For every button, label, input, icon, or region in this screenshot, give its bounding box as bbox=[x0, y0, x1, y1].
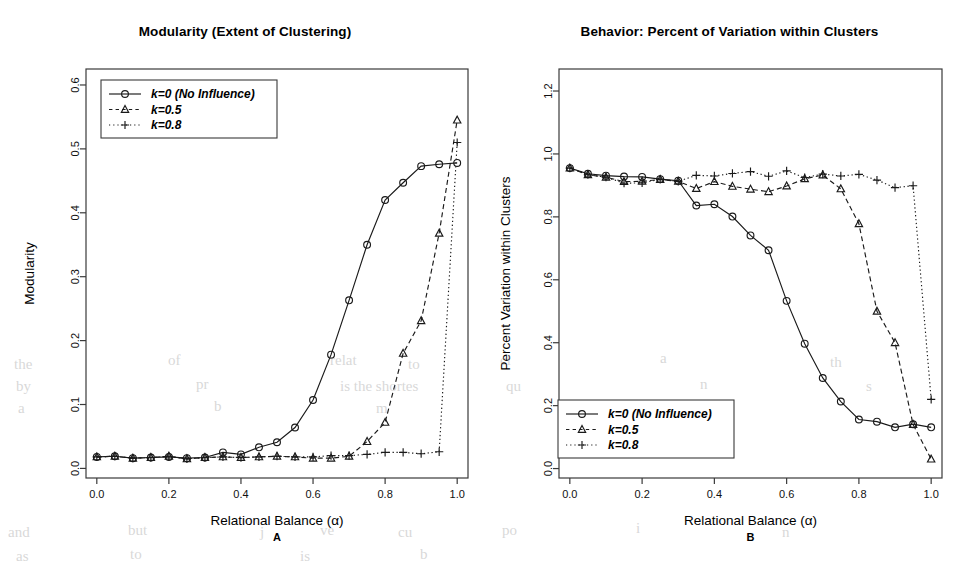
figure-container: Modularity (Extent of Clustering) 0.00.2… bbox=[0, 0, 969, 564]
data-point bbox=[837, 172, 845, 180]
data-point bbox=[891, 339, 898, 346]
data-point bbox=[381, 418, 388, 425]
y-tick-label: 0.1 bbox=[69, 397, 81, 412]
y-tick-label: 1.0 bbox=[542, 146, 554, 161]
data-point bbox=[435, 448, 443, 456]
data-point bbox=[417, 450, 425, 458]
data-point bbox=[399, 448, 407, 456]
y-tick-label: 1.2 bbox=[542, 83, 554, 98]
data-point bbox=[620, 179, 628, 187]
legend[interactable]: k=0 (No Influence)k=0.5k=0.8 bbox=[558, 400, 734, 458]
y-tick-label: 0.3 bbox=[69, 269, 81, 284]
data-point bbox=[855, 170, 863, 178]
series-1 bbox=[93, 116, 461, 462]
x-tick-label: 0.4 bbox=[707, 488, 722, 500]
data-point bbox=[746, 167, 754, 175]
legend-label: k=0.8 bbox=[151, 118, 182, 132]
panel-letter: A bbox=[273, 531, 281, 543]
data-point bbox=[638, 179, 646, 187]
x-tick-label: 0.0 bbox=[89, 488, 104, 500]
series-0 bbox=[93, 160, 460, 462]
x-tick-label: 0.2 bbox=[634, 488, 649, 500]
data-point bbox=[728, 169, 736, 177]
y-tick-label: 0.6 bbox=[69, 77, 81, 92]
y-tick-label: 0.0 bbox=[542, 461, 554, 476]
data-point bbox=[381, 448, 389, 456]
x-tick-label: 0.6 bbox=[305, 488, 320, 500]
x-tick-label: 0.8 bbox=[851, 488, 866, 500]
x-tick-label: 0.6 bbox=[779, 488, 794, 500]
data-point bbox=[873, 176, 881, 184]
data-point bbox=[692, 171, 700, 179]
data-point bbox=[891, 184, 899, 192]
x-tick-label: 0.8 bbox=[377, 488, 392, 500]
x-tick-label: 1.0 bbox=[450, 488, 465, 500]
data-point bbox=[710, 172, 718, 180]
panel-letter: B bbox=[747, 531, 755, 543]
series-path bbox=[570, 168, 931, 399]
y-tick-label: 0.4 bbox=[69, 205, 81, 220]
series-path bbox=[97, 142, 457, 458]
panel-a-plot: 0.00.20.40.60.81.00.00.10.20.30.40.50.6R… bbox=[0, 0, 490, 564]
x-axis: 0.00.20.40.60.81.0 bbox=[89, 478, 465, 500]
x-tick-label: 1.0 bbox=[924, 488, 939, 500]
x-tick-label: 0.4 bbox=[233, 488, 248, 500]
y-tick-label: 0.6 bbox=[542, 272, 554, 287]
y-tick-label: 0.4 bbox=[542, 335, 554, 350]
series-path bbox=[97, 120, 457, 459]
y-axis-title: Modularity bbox=[22, 242, 37, 305]
data-point bbox=[783, 167, 791, 175]
data-point bbox=[927, 395, 935, 403]
series-2 bbox=[93, 138, 462, 463]
series-2 bbox=[566, 164, 936, 403]
x-tick-label: 0.2 bbox=[161, 488, 176, 500]
legend-label: k=0 (No Influence) bbox=[608, 407, 712, 421]
legend-label: k=0.5 bbox=[151, 103, 182, 117]
panel-b-behavior: Behavior: Percent of Variation within Cl… bbox=[490, 0, 969, 564]
legend-label: k=0.5 bbox=[608, 423, 639, 437]
data-point bbox=[927, 455, 934, 462]
data-point bbox=[909, 182, 917, 190]
x-tick-label: 0.0 bbox=[562, 488, 577, 500]
y-tick-label: 0.2 bbox=[542, 398, 554, 413]
series-path bbox=[97, 163, 457, 458]
x-axis-title: Relational Balance (α) bbox=[210, 513, 343, 528]
panel-b-plot: 0.00.20.40.60.81.00.00.20.40.60.81.01.2R… bbox=[490, 0, 969, 564]
y-axis-title: Percent Variation within Clusters bbox=[498, 176, 513, 370]
x-axis-title: Relational Balance (α) bbox=[684, 513, 817, 528]
y-tick-label: 0.8 bbox=[542, 209, 554, 224]
legend[interactable]: k=0 (No Influence)k=0.5k=0.8 bbox=[101, 80, 277, 138]
y-tick-label: 0.2 bbox=[69, 333, 81, 348]
legend-label: k=0 (No Influence) bbox=[151, 87, 255, 101]
data-point bbox=[764, 172, 772, 180]
x-axis: 0.00.20.40.60.81.0 bbox=[562, 478, 939, 500]
data-point bbox=[363, 450, 371, 458]
series-0 bbox=[566, 165, 934, 431]
legend-label: k=0.8 bbox=[608, 438, 639, 452]
y-axis: 0.00.10.20.30.40.50.6 bbox=[69, 77, 86, 476]
y-tick-label: 0.5 bbox=[69, 141, 81, 156]
data-point bbox=[454, 116, 461, 123]
y-axis: 0.00.20.40.60.81.01.2 bbox=[542, 83, 559, 476]
y-tick-label: 0.0 bbox=[69, 461, 81, 476]
panel-a-modularity: Modularity (Extent of Clustering) 0.00.2… bbox=[0, 0, 490, 564]
series-path bbox=[570, 168, 931, 427]
